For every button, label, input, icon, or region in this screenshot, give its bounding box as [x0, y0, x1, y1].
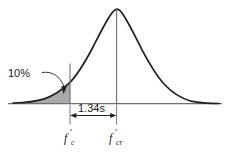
axis-label-fcr-subscript: cr [116, 138, 124, 147]
axis-label-fc: f ′ c [64, 127, 75, 147]
distribution-diagram-svg: 10% 1.34s f ′ c f ′ cr [0, 0, 228, 155]
shaded-tail-region [18, 82, 70, 103]
dimension-label: 1.34s [78, 102, 105, 114]
axis-label-fc-base: f [64, 131, 69, 145]
normal-curve [13, 9, 219, 103]
dimension-arrowhead-right-icon [110, 113, 116, 118]
axis-label-fcr: f ′ cr [109, 127, 124, 147]
axis-label-fcr-base: f [109, 131, 114, 145]
axis-label-fc-subscript: c [71, 138, 75, 147]
callout-leader-line [42, 72, 64, 86]
figure-container: 10% 1.34s f ′ c f ′ cr [0, 0, 228, 155]
tail-percent-label: 10% [8, 67, 30, 79]
axis-label-fc-prime: ′ [70, 127, 72, 138]
axis-label-fcr-prime: ′ [115, 127, 117, 138]
dimension-arrowhead-left-icon [70, 113, 76, 118]
